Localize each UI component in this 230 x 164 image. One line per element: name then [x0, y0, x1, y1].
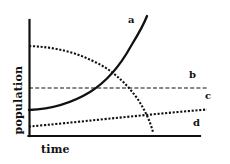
curve-d-line: [29, 46, 153, 132]
population-vs-time-chart: population time a b c d: [0, 0, 230, 164]
chart-plot-area: [0, 0, 230, 164]
curve-d-label: d: [193, 117, 200, 128]
curve-c-line: [29, 110, 207, 127]
curve-c-label: c: [205, 90, 211, 101]
x-axis-label: time: [41, 143, 70, 156]
y-axis-label: population: [12, 67, 25, 135]
curve-a-line: [29, 16, 147, 110]
curve-b-label: b: [189, 69, 196, 80]
curve-a-label: a: [128, 14, 134, 25]
